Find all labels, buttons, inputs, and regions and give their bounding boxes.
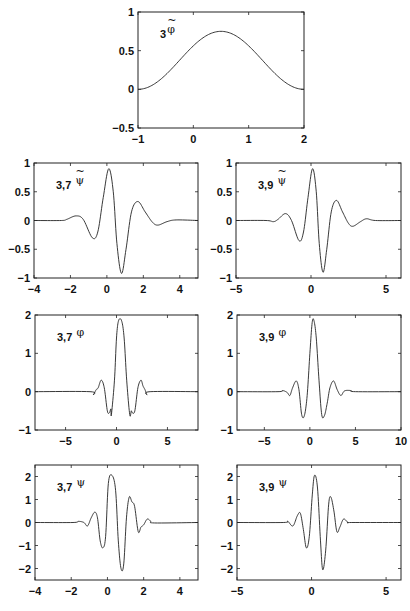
psi-symbol: ψ [279, 476, 288, 489]
x-tick-label: 4 [177, 585, 184, 597]
x-tick-label: 5 [164, 435, 170, 447]
y-tick-label: 0 [226, 215, 232, 227]
x-tick-label: 5 [383, 283, 389, 295]
x-tick-label: 0 [307, 435, 313, 447]
x-tick-label: 0 [190, 133, 196, 145]
x-tick-label: 2 [301, 133, 307, 145]
svg-text:3,9: 3,9 [258, 179, 273, 191]
y-tick-label: −1 [220, 424, 233, 436]
psi-symbol: ψ [77, 476, 86, 489]
x-tick-label: −4 [29, 585, 42, 597]
x-tick-label: −1 [132, 133, 145, 145]
y-tick-label: 0 [227, 517, 233, 529]
subplot-phi3_dual: −1012−0.500.513φ~ [112, 6, 307, 145]
x-tick-label: 4 [177, 283, 184, 295]
x-tick-label: 0 [308, 283, 314, 295]
x-tick-label: 5 [383, 585, 389, 597]
y-tick-label: 1 [227, 347, 233, 359]
series-label: 3,7ψ~ [56, 165, 85, 191]
y-tick-label: −1 [18, 424, 31, 436]
y-tick-label: 1 [128, 6, 134, 18]
y-tick-label: 0.5 [15, 186, 30, 198]
x-tick-label: −2 [65, 585, 78, 597]
curve-phi3_dual [138, 31, 304, 89]
y-tick-label: 2 [227, 471, 233, 483]
y-tick-label: 1 [25, 494, 31, 506]
subplot-psi37_dual: −4−2024−1−0.500.513,7ψ~ [8, 157, 198, 295]
y-tick-label: 0 [25, 386, 31, 398]
y-tick-label: −2 [220, 563, 233, 575]
x-tick-label: −4 [28, 283, 41, 295]
svg-text:3,9: 3,9 [259, 331, 274, 343]
y-tick-label: 0.5 [119, 45, 134, 57]
svg-text:3,7: 3,7 [56, 179, 71, 191]
subplot-phi37: −505−10123,7φ [18, 309, 198, 447]
y-tick-label: −1 [17, 272, 30, 284]
y-tick-label: 1 [226, 157, 232, 169]
x-tick-label: 2 [141, 585, 147, 597]
tilde-mark: ~ [76, 165, 85, 178]
subplot-psi39_dual: −505−1−0.500.513,9ψ~ [210, 157, 401, 295]
y-tick-label: 0.5 [217, 186, 232, 198]
x-tick-label: 5 [352, 435, 358, 447]
series-label: 3,7φ [57, 326, 85, 343]
subplot-psi37: −4−2024−2−10123,7ψ [18, 465, 198, 597]
x-tick-label: 1 [246, 133, 252, 145]
x-tick-label: 0 [113, 435, 119, 447]
y-tick-label: −0.5 [8, 243, 30, 255]
svg-text:3,7: 3,7 [57, 331, 72, 343]
y-tick-label: 1 [227, 494, 233, 506]
y-tick-label: −1 [220, 540, 233, 552]
y-tick-label: 2 [227, 309, 233, 321]
x-tick-label: 0 [104, 585, 110, 597]
y-tick-label: −1 [219, 272, 232, 284]
y-tick-label: 0 [25, 517, 31, 529]
y-tick-label: 0 [128, 83, 134, 95]
x-tick-label: 0 [104, 283, 110, 295]
series-label: 3φ~ [160, 14, 176, 40]
y-tick-label: 1 [24, 157, 30, 169]
svg-text:3,9: 3,9 [259, 481, 274, 493]
y-tick-label: −0.5 [112, 122, 134, 134]
y-tick-label: 2 [25, 309, 31, 321]
x-tick-label: 10 [395, 435, 407, 447]
svg-text:3: 3 [160, 28, 166, 40]
y-tick-label: −1 [18, 540, 31, 552]
x-tick-label: 0 [308, 585, 314, 597]
x-tick-label: −5 [258, 435, 271, 447]
figure-canvas: −1012−0.500.513φ~−4−2024−1−0.500.513,7ψ~… [0, 0, 410, 611]
y-tick-label: 2 [25, 471, 31, 483]
subplot-phi39: −50510−10123,9φ [220, 309, 407, 447]
x-tick-label: −5 [230, 283, 243, 295]
subplot-psi39: −505−2−10123,9ψ [220, 465, 401, 597]
tilde-mark: ~ [167, 14, 176, 27]
y-tick-label: 0 [227, 386, 233, 398]
series-label: 3,7ψ [57, 476, 85, 493]
phi-symbol: φ [279, 326, 287, 339]
x-tick-label: −5 [231, 585, 244, 597]
series-label: 3,9φ [259, 326, 287, 343]
x-tick-label: 2 [140, 283, 146, 295]
y-tick-label: −2 [18, 563, 31, 575]
y-tick-label: −0.5 [210, 243, 232, 255]
series-label: 3,9ψ~ [258, 165, 287, 191]
svg-text:3,7: 3,7 [57, 481, 72, 493]
series-label: 3,9ψ [259, 476, 287, 493]
phi-symbol: φ [77, 326, 85, 339]
y-tick-label: 1 [25, 347, 31, 359]
x-tick-label: −2 [64, 283, 77, 295]
y-tick-label: 0 [24, 215, 30, 227]
tilde-mark: ~ [278, 165, 287, 178]
x-tick-label: −5 [59, 435, 72, 447]
